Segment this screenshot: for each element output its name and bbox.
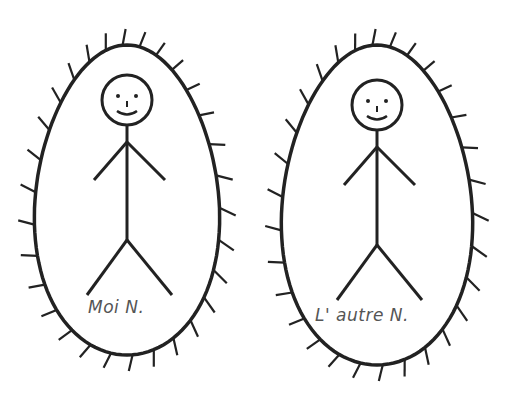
eye-right	[384, 99, 388, 103]
label-me: Moi N.	[88, 297, 144, 317]
spike	[173, 338, 177, 355]
spike	[286, 119, 297, 132]
spike	[443, 329, 451, 346]
arm-left	[344, 147, 377, 185]
spike	[172, 60, 183, 70]
spike	[38, 117, 49, 130]
spike	[21, 185, 36, 193]
spike	[466, 277, 479, 290]
spike	[29, 285, 45, 288]
spike	[209, 144, 225, 145]
spike	[289, 318, 304, 324]
spike	[425, 347, 429, 364]
spike	[140, 32, 146, 47]
spike	[462, 147, 478, 148]
spike	[186, 84, 199, 90]
figure-other	[265, 29, 489, 381]
head	[352, 80, 402, 130]
spike	[80, 345, 91, 357]
spike	[69, 63, 75, 80]
spike	[372, 29, 375, 45]
spike	[423, 61, 434, 71]
spike	[451, 115, 466, 118]
spike	[214, 270, 227, 283]
spike	[104, 353, 112, 368]
spike	[156, 43, 165, 55]
arm-left	[94, 142, 127, 180]
head	[102, 75, 152, 125]
arm-right	[377, 147, 415, 185]
spike	[191, 320, 199, 337]
spike	[335, 45, 338, 62]
leg-right	[127, 240, 172, 295]
spike	[216, 175, 233, 179]
spike	[407, 43, 416, 55]
spike	[472, 246, 487, 257]
spike	[473, 213, 489, 221]
spike	[199, 112, 214, 115]
spike	[379, 365, 383, 381]
spike	[21, 255, 38, 256]
label-other: L' autre N.	[315, 305, 409, 325]
spike	[219, 208, 235, 216]
spike	[353, 363, 361, 378]
leg-left	[337, 245, 377, 300]
spike	[317, 64, 323, 81]
leg-right	[377, 245, 422, 300]
spike	[390, 32, 396, 47]
spike	[123, 29, 126, 45]
spike	[87, 45, 90, 62]
spike	[129, 355, 133, 371]
spike	[275, 153, 288, 164]
spike	[307, 339, 321, 349]
spike	[41, 310, 56, 316]
spike	[18, 220, 34, 224]
spike	[276, 293, 292, 296]
eye-left	[366, 99, 370, 103]
figure-me	[18, 29, 236, 371]
arm-right	[127, 142, 165, 180]
spike	[457, 305, 468, 320]
spike	[59, 330, 72, 340]
spike	[268, 262, 285, 263]
eye-left	[116, 94, 120, 98]
spike	[268, 189, 283, 197]
spike	[438, 85, 451, 91]
spike	[28, 150, 41, 161]
smile	[117, 111, 137, 115]
spike	[219, 240, 234, 251]
smile	[367, 116, 387, 120]
spike	[469, 180, 486, 184]
spike	[329, 355, 340, 367]
spike	[300, 89, 309, 104]
spike	[265, 226, 281, 230]
spike	[204, 297, 215, 312]
eye-right	[134, 94, 138, 98]
spike	[52, 88, 61, 103]
diagram-canvas	[0, 0, 522, 400]
leg-left	[87, 240, 127, 295]
